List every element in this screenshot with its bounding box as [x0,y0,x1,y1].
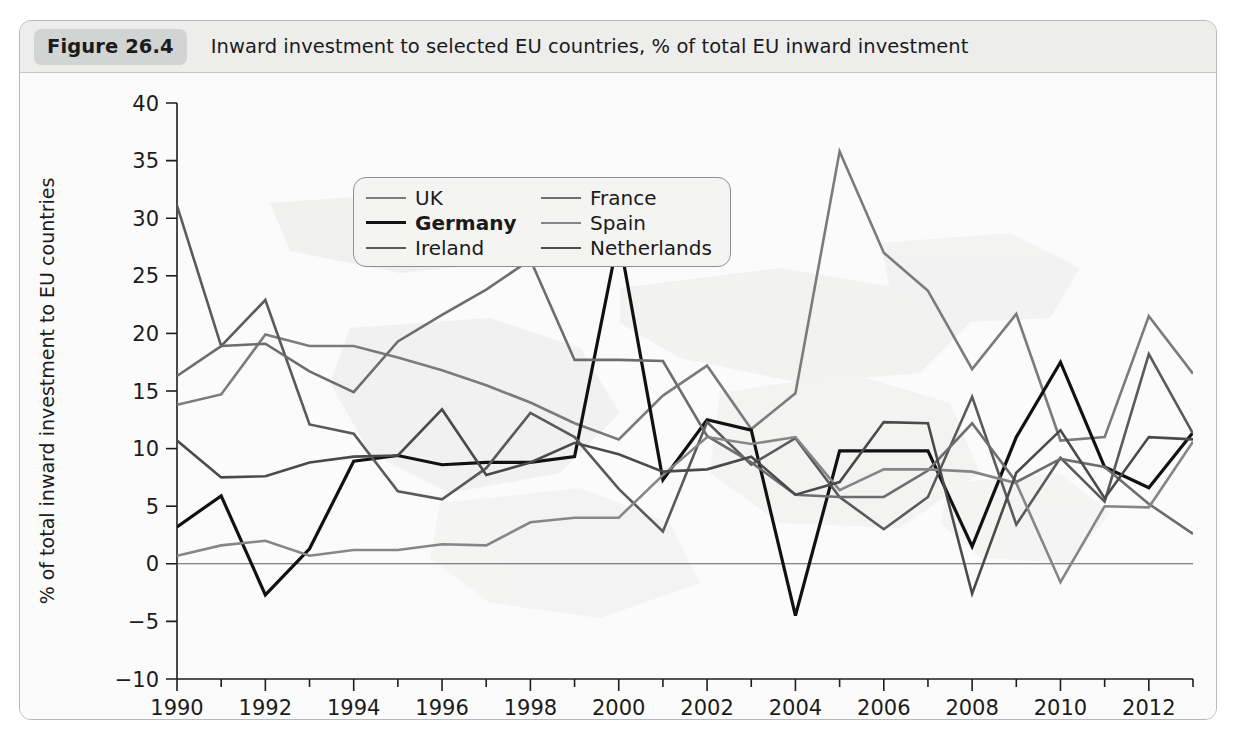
y-tick-label: 30 [132,207,159,231]
legend-swatch-netherlands-icon [541,247,581,249]
y-tick-label: 20 [132,322,159,346]
x-tick-label: 2006 [857,696,910,719]
line-chart-svg: −10−50510152025303540 199019921994199619… [20,73,1217,719]
y-tick-label: 15 [132,380,159,404]
legend-item-spain[interactable]: Spain [541,211,736,235]
legend-label: France [590,186,657,210]
figure-frame: Figure 26.4 Inward investment to selecte… [19,20,1217,720]
x-tick-label: 2012 [1122,696,1175,719]
x-axis-ticks [177,679,1193,691]
legend-swatch-ireland-icon [366,247,406,249]
x-tick-label: 2010 [1034,696,1087,719]
x-axis-tick-labels: 1990199219941996199820002002200420062008… [150,696,1175,719]
y-tick-label: −10 [115,668,159,692]
y-tick-label: 5 [146,495,159,519]
legend-label: Ireland [415,236,484,260]
figure-caption-title: Inward investment to selected EU countri… [211,35,969,58]
x-tick-label: 1992 [239,696,292,719]
chart-legend: UKFranceGermanySpainIrelandNetherlands [353,177,731,267]
legend-label: UK [415,186,443,210]
x-tick-label: 2002 [680,696,733,719]
legend-label: Germany [415,211,516,235]
legend-item-ireland[interactable]: Ireland [366,236,541,260]
y-tick-label: 40 [132,92,159,116]
y-axis-tick-labels: −10−50510152025303540 [115,92,159,692]
x-tick-label: 2008 [945,696,998,719]
legend-swatch-uk-icon [366,197,406,199]
figure-caption-bar: Figure 26.4 Inward investment to selecte… [20,21,1216,73]
x-tick-label: 2000 [592,696,645,719]
y-axis-title: % of total inward investment to EU count… [36,178,58,605]
x-tick-label: 2004 [769,696,822,719]
legend-item-france[interactable]: France [541,186,736,210]
y-tick-label: 10 [132,437,159,461]
legend-swatch-germany-icon [366,221,406,224]
x-tick-label: 1990 [150,696,203,719]
figure-page: Figure 26.4 Inward investment to selecte… [0,0,1238,744]
legend-item-uk[interactable]: UK [366,186,541,210]
legend-item-netherlands[interactable]: Netherlands [541,236,736,260]
legend-item-germany[interactable]: Germany [366,211,541,235]
chart-plot-area: −10−50510152025303540 199019921994199619… [20,73,1217,719]
x-tick-label: 1998 [504,696,557,719]
x-tick-label: 1996 [415,696,468,719]
y-tick-label: −5 [128,610,159,634]
y-tick-label: 0 [146,552,159,576]
figure-number-badge: Figure 26.4 [34,29,187,65]
x-tick-label: 1994 [327,696,380,719]
y-tick-label: 25 [132,264,159,288]
legend-label: Spain [590,211,646,235]
legend-label: Netherlands [590,236,712,260]
y-tick-label: 35 [132,149,159,173]
legend-swatch-spain-icon [541,222,581,224]
legend-swatch-france-icon [541,197,581,199]
y-axis-ticks [166,103,177,679]
